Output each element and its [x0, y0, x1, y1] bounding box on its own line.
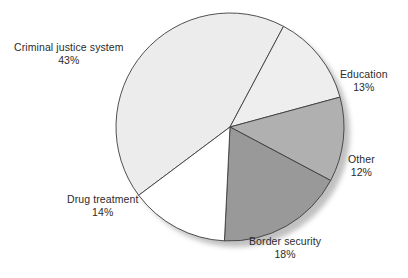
pie-slice-group — [116, 13, 344, 241]
slice-label-value: 12% — [348, 166, 375, 179]
slice-label-name: Border security — [249, 235, 321, 248]
slice-label-border-security: Border security 18% — [249, 235, 321, 261]
slice-label-drug-treatment: Drug treatment 14% — [67, 193, 138, 219]
slice-label-criminal-justice-system: Criminal justice system 43% — [14, 41, 124, 67]
slice-label-name: Criminal justice system — [14, 41, 124, 54]
slice-label-value: 43% — [14, 54, 124, 67]
slice-label-value: 13% — [340, 81, 388, 94]
slice-label-value: 14% — [67, 206, 138, 219]
slice-label-name: Education — [340, 68, 388, 81]
pie-chart-figure: Criminal justice system 43% Education 13… — [0, 0, 408, 278]
slice-label-name: Drug treatment — [67, 193, 138, 206]
slice-label-name: Other — [348, 153, 375, 166]
slice-label-value: 18% — [249, 248, 321, 261]
slice-label-other: Other 12% — [348, 153, 375, 179]
slice-label-education: Education 13% — [340, 68, 388, 94]
